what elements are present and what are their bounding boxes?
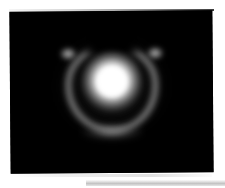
status-bar[interactable] [86,180,225,186]
arc-tip-left [59,47,76,60]
viewer-stage [0,0,225,188]
arc-tip-right [146,46,163,59]
panel-drop-shadow [12,174,212,177]
ring-bottom-glow [81,124,143,140]
image-canvas[interactable] [9,10,213,174]
image-display-panel[interactable] [9,10,213,174]
central-source-core [96,67,126,97]
